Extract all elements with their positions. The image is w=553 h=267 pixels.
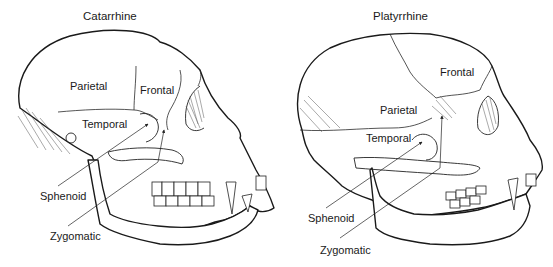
panel-title-platyrrhine: Platyrrhine (373, 10, 428, 22)
label-zygomatic: Zygomatic (50, 230, 101, 242)
label-frontal: Frontal (140, 84, 174, 96)
label-sphenoid: Sphenoid (308, 212, 355, 224)
label-zygomatic: Zygomatic (320, 244, 371, 256)
label-temporal: Temporal (366, 132, 411, 144)
catarrhine-skull (18, 30, 274, 244)
label-sphenoid: Sphenoid (40, 190, 87, 202)
label-frontal: Frontal (440, 66, 474, 78)
label-parietal: Parietal (380, 104, 417, 116)
skull-comparison-diagram: Catarrhine Parietal Frontal Temporal Sph… (0, 0, 553, 267)
panel-title-catarrhine: Catarrhine (83, 10, 137, 22)
label-temporal: Temporal (82, 118, 127, 130)
label-parietal: Parietal (70, 80, 107, 92)
platyrrhine-cranium-outline (298, 33, 543, 216)
